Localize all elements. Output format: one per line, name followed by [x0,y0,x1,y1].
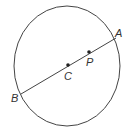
point-b-label: B [11,92,18,104]
point-p-label: P [86,56,94,68]
point-c-dot [66,63,70,67]
point-a-label: A [114,27,122,39]
point-p-dot [87,50,91,54]
point-c-label: C [64,70,72,82]
circle-diagram: ABCP [0,0,129,131]
